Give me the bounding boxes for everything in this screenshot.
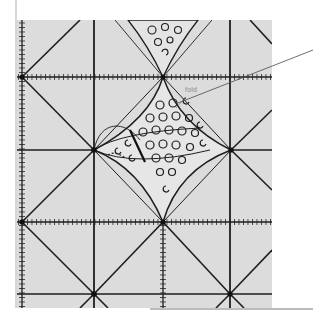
- diagram-canvas: fold: [0, 0, 313, 329]
- fold-label: fold: [185, 86, 197, 93]
- quilt-mat-illustration: [0, 0, 313, 329]
